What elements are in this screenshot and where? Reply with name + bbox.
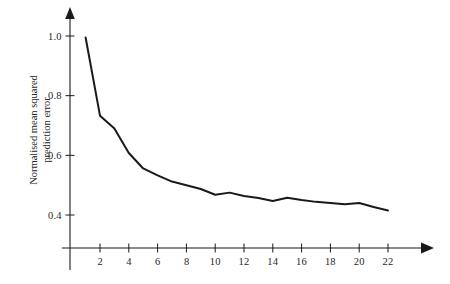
y-tick-label: 0.6 <box>48 150 62 161</box>
x-tick-label: 16 <box>296 256 307 267</box>
x-tick-label: 12 <box>239 256 250 267</box>
data-series-group <box>86 37 388 210</box>
x-tick-label: 14 <box>267 256 278 267</box>
x-tick-label: 22 <box>383 256 394 267</box>
y-tick-label: 1.0 <box>48 31 62 42</box>
x-tick-label: 4 <box>126 256 131 267</box>
x-tick-label: 8 <box>184 256 189 267</box>
x-tick-label: 2 <box>98 256 103 267</box>
x-tick-label: 18 <box>325 256 336 267</box>
x-tick-label: 20 <box>354 256 365 267</box>
line-chart: Normalised mean squared prediction error <box>0 0 450 284</box>
y-axis-arrow-icon <box>65 7 75 19</box>
y-tick-label: 0.4 <box>48 210 62 221</box>
y-tick-label: 0.8 <box>48 90 62 101</box>
chart-figure: Normalised mean squared prediction error… <box>0 0 450 284</box>
x-tick-label: 6 <box>155 256 160 267</box>
data-series-line <box>86 37 388 210</box>
x-axis-arrow-icon <box>421 243 434 254</box>
x-tick-label: 10 <box>210 256 221 267</box>
y-axis-label-line-1: Normalised mean squared <box>28 74 39 184</box>
